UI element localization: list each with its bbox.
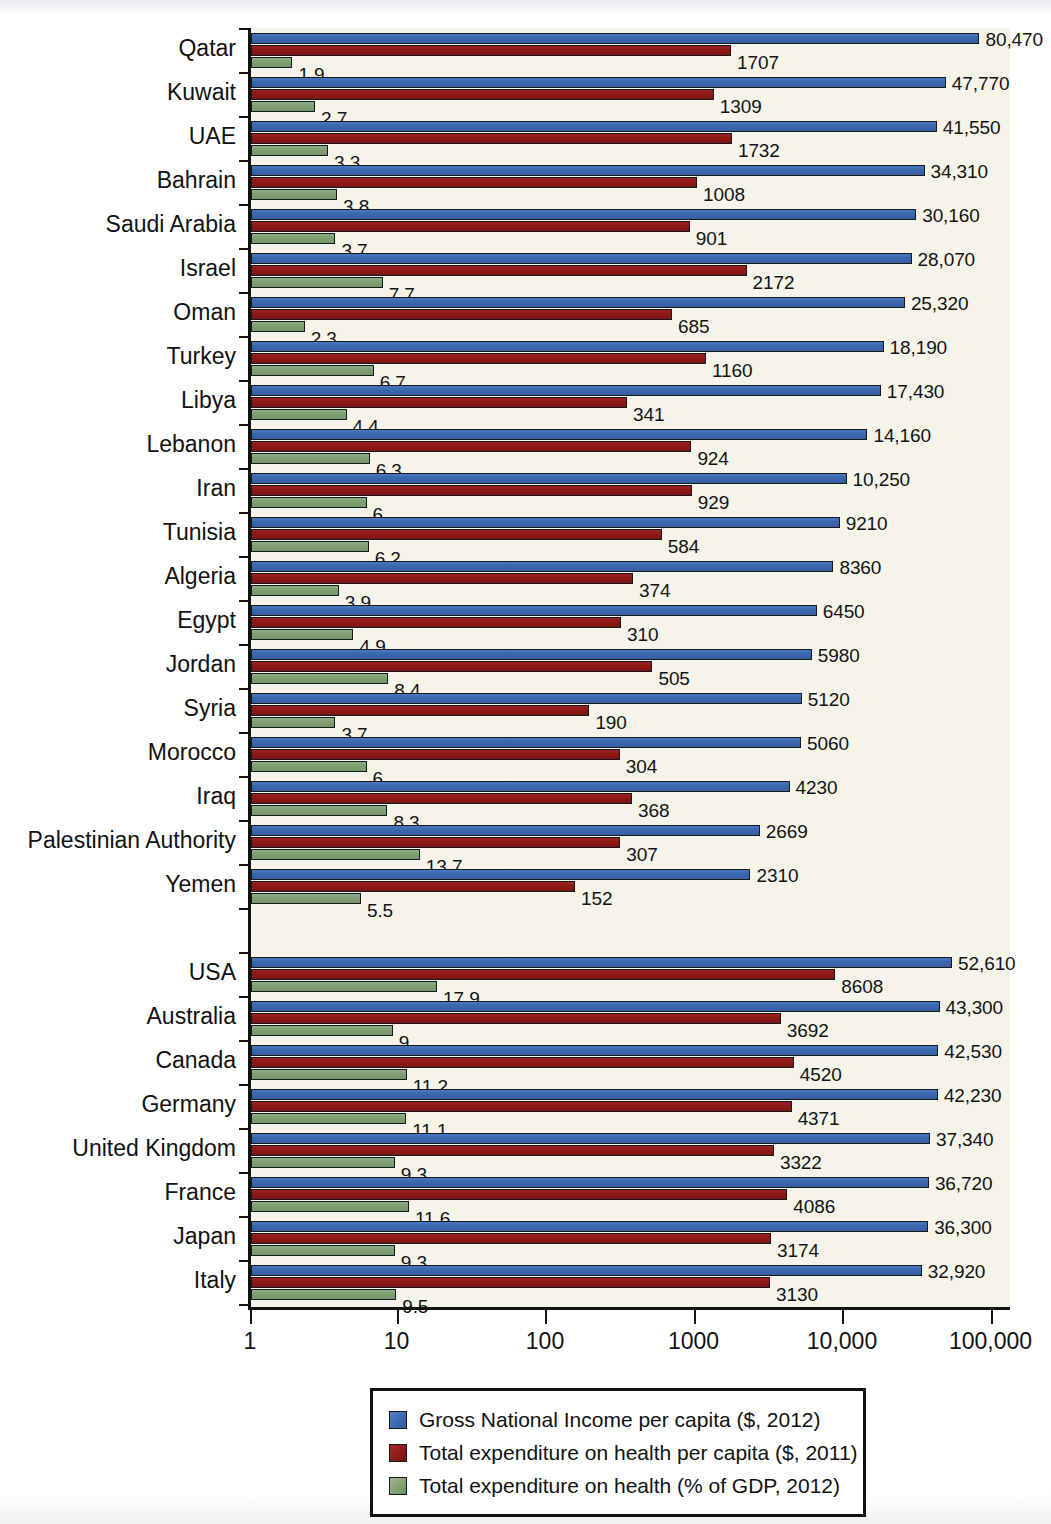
bar-gdp bbox=[251, 145, 328, 156]
bar-value-label-gni: 47,770 bbox=[952, 74, 1010, 93]
bar-gdp bbox=[251, 189, 337, 200]
bar-value-label-thexp: 307 bbox=[626, 845, 657, 864]
bar-gdp bbox=[251, 805, 387, 816]
chart-row: 42,530452011.2 bbox=[251, 1043, 1010, 1087]
y-axis-tick bbox=[239, 336, 251, 338]
bar-value-label-thexp: 2172 bbox=[753, 273, 795, 292]
bar-gdp bbox=[251, 57, 292, 68]
y-axis-label: Oman bbox=[0, 301, 236, 324]
bar-gdp bbox=[251, 233, 335, 244]
y-axis-tick bbox=[239, 1260, 251, 1262]
bar-gdp bbox=[251, 409, 347, 420]
y-axis-label: Tunisia bbox=[0, 521, 236, 544]
x-axis-tick-label: 1 bbox=[244, 1328, 257, 1355]
bar-thexp bbox=[251, 969, 835, 980]
bar-thexp bbox=[251, 441, 691, 452]
bar-thexp bbox=[251, 89, 714, 100]
bar-value-label-gni: 2669 bbox=[766, 822, 808, 841]
x-axis-tick-label: 100,000 bbox=[949, 1328, 1032, 1355]
bar-value-label-gni: 2310 bbox=[756, 866, 798, 885]
bar-gni bbox=[251, 1265, 922, 1276]
bar-value-label-thexp: 368 bbox=[638, 801, 669, 820]
y-axis-tick bbox=[239, 644, 251, 646]
x-axis-tick bbox=[545, 1310, 547, 1324]
bar-value-label-thexp: 924 bbox=[697, 449, 728, 468]
bar-gdp bbox=[251, 1113, 406, 1124]
y-axis-tick bbox=[239, 292, 251, 294]
bar-thexp bbox=[251, 705, 589, 716]
y-axis-label: Bahrain bbox=[0, 169, 236, 192]
x-axis-tick bbox=[250, 1310, 252, 1324]
bar-gdp bbox=[251, 321, 305, 332]
chart-row: 92105846.2 bbox=[251, 515, 1010, 559]
bar-value-label-gni: 8360 bbox=[839, 558, 881, 577]
y-axis-tick bbox=[239, 160, 251, 162]
chart-row: 52,610860817.9 bbox=[251, 955, 1010, 999]
bar-gdp bbox=[251, 453, 370, 464]
chart-row: 50603046 bbox=[251, 735, 1010, 779]
chart-row: 17,4303414.4 bbox=[251, 383, 1010, 427]
plot-area: 80,47017071.947,77013092.741,55017323.33… bbox=[248, 28, 1010, 1310]
bar-gdp bbox=[251, 541, 369, 552]
bar-value-label-gni: 30,160 bbox=[922, 206, 980, 225]
y-axis-tick bbox=[239, 1084, 251, 1086]
bar-value-label-thexp: 304 bbox=[626, 757, 657, 776]
bar-value-label-gni: 42,530 bbox=[944, 1042, 1002, 1061]
chart-row: 36,720408611.6 bbox=[251, 1175, 1010, 1219]
bar-gni bbox=[251, 561, 833, 572]
x-axis-tick bbox=[842, 1310, 844, 1324]
bar-value-label-thexp: 685 bbox=[678, 317, 709, 336]
y-axis-label: France bbox=[0, 1181, 236, 1204]
scan-artifact-top bbox=[0, 0, 1051, 14]
bar-value-label-gni: 80,470 bbox=[985, 30, 1043, 49]
bar-value-label-thexp: 505 bbox=[658, 669, 689, 688]
bar-thexp bbox=[251, 1101, 792, 1112]
y-axis-tick bbox=[239, 556, 251, 558]
bar-thexp bbox=[251, 617, 621, 628]
bar-thexp bbox=[251, 45, 731, 56]
bar-thexp bbox=[251, 1189, 787, 1200]
bar-gni bbox=[251, 1177, 929, 1188]
bar-value-label-thexp: 584 bbox=[668, 537, 699, 556]
chart-row: 42,230437111.1 bbox=[251, 1087, 1010, 1131]
y-axis-tick bbox=[239, 688, 251, 690]
x-axis-tick bbox=[397, 1310, 399, 1324]
bar-gdp bbox=[251, 1025, 393, 1036]
y-axis-tick bbox=[239, 468, 251, 470]
bar-value-label-gni: 5980 bbox=[818, 646, 860, 665]
y-axis-tick bbox=[239, 996, 251, 998]
bar-value-label-gdp: 5.5 bbox=[367, 901, 393, 920]
chart-row: 34,31010083.8 bbox=[251, 163, 1010, 207]
y-axis-label: Canada bbox=[0, 1049, 236, 1072]
y-axis-label: Yemen bbox=[0, 873, 236, 896]
bar-gni bbox=[251, 165, 925, 176]
bar-gni bbox=[251, 957, 952, 968]
bar-thexp bbox=[251, 309, 672, 320]
bar-thexp bbox=[251, 529, 662, 540]
bar-thexp bbox=[251, 1145, 774, 1156]
bar-gdp bbox=[251, 585, 339, 596]
chart-row: 51201903.7 bbox=[251, 691, 1010, 735]
chart-row: 64503104.9 bbox=[251, 603, 1010, 647]
bar-gni bbox=[251, 473, 847, 484]
y-axis-tick bbox=[239, 380, 251, 382]
bar-gdp bbox=[251, 1069, 407, 1080]
bar-gdp bbox=[251, 981, 437, 992]
legend-label: Gross National Income per capita ($, 201… bbox=[419, 1409, 821, 1430]
legend: Gross National Income per capita ($, 201… bbox=[370, 1388, 866, 1517]
y-axis-label: Israel bbox=[0, 257, 236, 280]
y-axis-label: Morocco bbox=[0, 741, 236, 764]
y-axis-label: Algeria bbox=[0, 565, 236, 588]
bar-value-label-thexp: 374 bbox=[639, 581, 670, 600]
y-axis-tick bbox=[239, 28, 251, 30]
legend-item: Total expenditure on health per capita (… bbox=[389, 1436, 849, 1469]
bar-value-label-gni: 10,250 bbox=[853, 470, 911, 489]
bar-gni bbox=[251, 1001, 940, 1012]
bar-thexp bbox=[251, 353, 706, 364]
bar-thexp bbox=[251, 1013, 781, 1024]
bar-value-label-thexp: 3322 bbox=[780, 1153, 822, 1172]
y-axis-tick bbox=[239, 116, 251, 118]
bar-thexp bbox=[251, 133, 732, 144]
bar-value-label-thexp: 901 bbox=[696, 229, 727, 248]
bar-gni bbox=[251, 1089, 938, 1100]
